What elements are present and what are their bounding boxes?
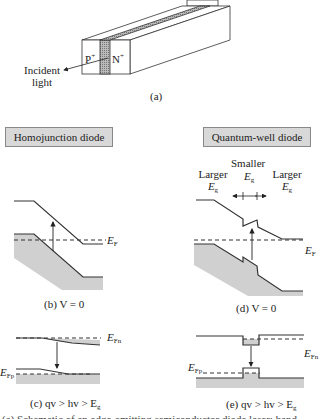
incident-light-label: Incident light <box>20 64 64 88</box>
caption-b: (b) V = 0 <box>44 298 84 310</box>
quantum-well-band-diagram-v0 <box>194 192 304 296</box>
figure-caption-cropped: (a) Schematic of an edge-emitting semico… <box>0 413 324 419</box>
larger-eg-left-label: Larger Eg <box>196 168 230 196</box>
efn-label-homojunction: EFn <box>107 331 121 347</box>
caption-c: (c) qv > hv > Eg <box>30 397 101 413</box>
well-electron-fill <box>243 339 259 345</box>
homojunction-band-diagram-forward <box>16 338 101 384</box>
n-region-label: N+ <box>112 50 124 65</box>
p-region-label: P+ <box>85 50 95 65</box>
caption-e: (e) qv > hv > Eg <box>226 398 297 414</box>
caption-a: (a) <box>150 90 162 102</box>
quantum-well-band-diagram-forward <box>196 335 304 388</box>
conduction-band <box>196 200 303 239</box>
valence-band <box>16 369 100 374</box>
homojunction-title: Homojunction diode <box>5 127 113 147</box>
valence-fill <box>16 374 100 384</box>
smaller-eg-label: Smaller <box>231 157 265 169</box>
fermi-level-label-homojunction: EF <box>107 234 118 250</box>
top-contact <box>187 0 218 6</box>
figure-graphics <box>0 0 324 419</box>
larger-eg-right-label: Larger Eg <box>270 168 304 196</box>
valence-fill <box>14 234 103 290</box>
fermi-level-label-quantum-well: EF <box>305 244 316 260</box>
caption-d: (d) V = 0 <box>236 302 276 314</box>
valence-fill <box>194 244 303 296</box>
well-hole-fill <box>243 373 259 378</box>
valence-fill <box>196 378 304 388</box>
efn-label-quantum-well: EFn <box>304 347 318 363</box>
efp-label-homojunction: EFp <box>0 366 14 382</box>
homojunction-band-diagram-v0 <box>14 201 106 290</box>
efp-label-quantum-well: EFp <box>188 361 202 377</box>
active-layer-front <box>100 40 110 74</box>
smaller-eg-symbol: Eg <box>244 170 254 186</box>
quantum-well-title: Quantum-well diode <box>203 127 311 147</box>
